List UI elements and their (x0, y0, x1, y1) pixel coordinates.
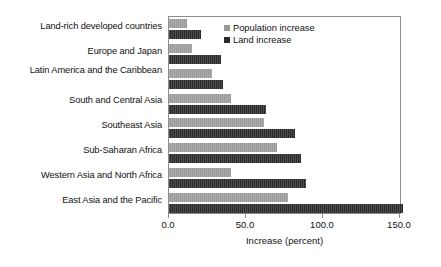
category-label: Western Asia and North Africa (0, 170, 162, 181)
bar-land-increase (169, 80, 223, 89)
bar-chart: Land-rich developed countries Europe and… (0, 0, 441, 267)
x-axis-tick-labels: 0.050.0100.0150.0 (0, 219, 441, 233)
x-axis-tick-label: 50.0 (236, 219, 255, 230)
x-axis-tick (245, 214, 246, 218)
legend-item-land-increase: Land increase (224, 34, 315, 46)
bar-land-increase (169, 204, 403, 213)
x-axis-tick (322, 214, 323, 218)
legend-item-population-increase: Population increase (224, 22, 315, 34)
legend-swatch-icon (224, 37, 230, 43)
bar-population-increase (169, 94, 231, 103)
x-axis-title: Increase (percent) (168, 235, 401, 246)
category-label: Land-rich developed countries (0, 21, 162, 32)
legend-label: Land increase (233, 34, 291, 46)
x-axis-tick (168, 214, 169, 218)
x-axis-tick-label: 100.0 (310, 219, 334, 230)
legend-swatch-icon (224, 25, 230, 31)
category-label: Sub-Saharan Africa (0, 145, 162, 156)
category-label: Southeast Asia (0, 120, 162, 131)
x-axis-tick (399, 214, 400, 218)
x-axis-tick-label: 150.0 (387, 219, 411, 230)
bar-population-increase (169, 69, 212, 78)
bar-land-increase (169, 30, 201, 39)
bar-population-increase (169, 143, 277, 152)
bar-land-increase (169, 179, 306, 188)
category-label: East Asia and the Pacific (0, 195, 162, 206)
bar-population-increase (169, 118, 264, 127)
bar-population-increase (169, 44, 192, 53)
category-axis-labels: Land-rich developed countries Europe and… (0, 16, 162, 214)
bar-land-increase (169, 129, 295, 138)
bar-population-increase (169, 19, 187, 28)
bars-container (169, 17, 400, 213)
bar-land-increase (169, 55, 221, 64)
bar-population-increase (169, 168, 231, 177)
x-axis-tick-label: 0.0 (161, 219, 174, 230)
bar-population-increase (169, 193, 288, 202)
legend-label: Population increase (233, 22, 315, 34)
category-label: Latin America and the Caribbean (0, 65, 162, 76)
category-label: South and Central Asia (0, 95, 162, 106)
bar-land-increase (169, 105, 266, 114)
bar-land-increase (169, 154, 301, 163)
legend: Population increase Land increase (224, 22, 315, 46)
category-label: Europe and Japan (0, 46, 162, 57)
